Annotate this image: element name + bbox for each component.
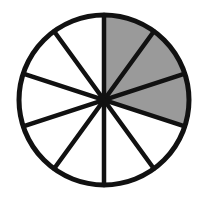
fraction-circle-diagram bbox=[0, 0, 204, 203]
fraction-circle-graphic bbox=[0, 0, 204, 203]
